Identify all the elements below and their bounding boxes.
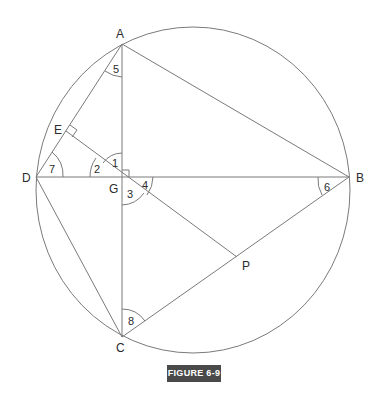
label-point-b: B (356, 171, 364, 185)
label-point-c: C (116, 341, 125, 355)
label-point-d: D (22, 171, 31, 185)
figure-caption: FIGURE 6-9 (167, 365, 221, 382)
geometry-diagram: A B C D E G P 1 2 3 4 5 6 7 8 (0, 0, 384, 399)
label-point-p: P (242, 259, 250, 273)
label-angle-1: 1 (112, 157, 118, 169)
label-angle-4: 4 (142, 179, 148, 191)
segment-ep (66, 131, 237, 257)
segment-ab (122, 44, 349, 177)
label-point-a: A (116, 27, 124, 41)
label-angle-3: 3 (127, 188, 133, 200)
label-point-g: G (109, 182, 118, 196)
label-point-e: E (54, 123, 62, 137)
segment-dc (36, 177, 122, 337)
label-angle-2: 2 (94, 163, 100, 175)
label-angle-7: 7 (49, 163, 55, 175)
label-angle-6: 6 (324, 181, 330, 193)
label-angle-5: 5 (113, 63, 119, 75)
label-angle-8: 8 (128, 315, 134, 327)
circle (36, 27, 350, 353)
angle-arc-6 (318, 177, 322, 195)
segment-cb (122, 177, 349, 337)
